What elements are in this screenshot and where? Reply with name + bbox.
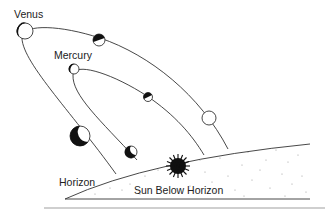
bottom-separator [44,207,325,209]
venus-crescent-icon [17,22,33,39]
venus-half-icon [91,32,105,46]
venus-label: Venus [14,9,43,20]
mercury-crescent-icon [69,64,79,74]
horizon-label: Horizon [59,177,95,188]
mercury-label: Mercury [54,50,92,61]
mercury-half-icon [142,91,152,101]
planet-phases-diagram [0,0,325,211]
mercury-near-new-icon [125,146,137,158]
sun-below-horizon-label: Sun Below Horizon [134,185,223,196]
sun-icon [166,154,190,178]
venus-near-new-icon [70,126,90,146]
mercury-orbit [73,69,204,160]
venus-full-icon [202,111,216,125]
